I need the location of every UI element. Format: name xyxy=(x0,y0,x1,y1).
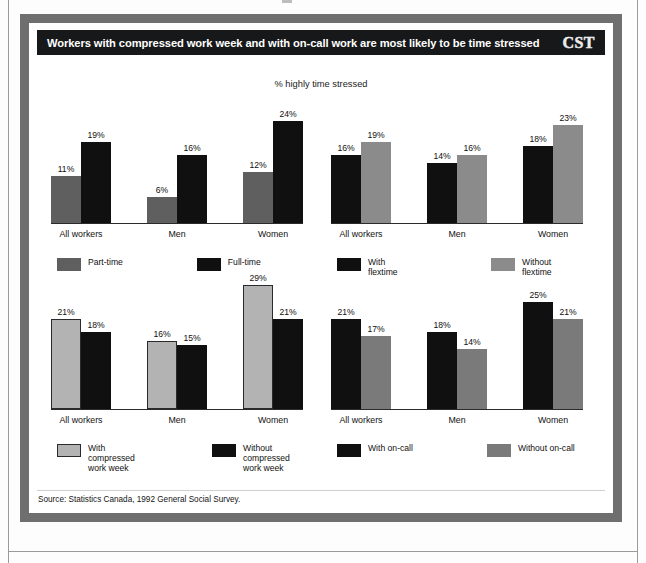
bar-value-label: 18% xyxy=(87,320,104,330)
category-label: Men xyxy=(147,415,207,425)
bar-column: 12% xyxy=(243,95,273,223)
legend-item[interactable]: Without compressed work week xyxy=(212,443,303,473)
bar-column: 16% xyxy=(147,281,177,409)
legend-swatch xyxy=(491,258,515,271)
page-title: Workers with compressed work week and wi… xyxy=(47,37,562,49)
bar-value-label: 18% xyxy=(529,134,546,144)
scanned-page: Workers with compressed work week and wi… xyxy=(0,0,646,563)
bar-value-label: 19% xyxy=(87,130,104,140)
bar-value-label: 21% xyxy=(559,307,576,317)
bar xyxy=(361,142,391,223)
legend-label: With compressed work week xyxy=(88,443,138,473)
chart-panel-part-time-full-time: 11%19%6%16%12%24%All workersMenWomenPart… xyxy=(51,95,303,223)
legend-item[interactable]: With compressed work week xyxy=(57,443,138,473)
bar-column: 16% xyxy=(457,95,487,223)
category-label: Women xyxy=(523,415,583,425)
bar-value-label: 18% xyxy=(433,320,450,330)
legend-swatch xyxy=(57,444,81,457)
bar-group: 16%15% xyxy=(147,281,207,409)
category-labels: All workersMenWomen xyxy=(331,415,583,425)
bar xyxy=(523,146,553,223)
page-edge-rule-right xyxy=(637,0,638,563)
category-label: All workers xyxy=(51,229,111,239)
figure-title-bar: Workers with compressed work week and wi… xyxy=(37,30,605,55)
legend-item[interactable]: Full-time xyxy=(197,257,261,271)
category-label: All workers xyxy=(51,415,111,425)
bar xyxy=(243,172,273,223)
bar-value-label: 14% xyxy=(463,337,480,347)
bar xyxy=(81,332,111,409)
legend-label: With on-call xyxy=(368,443,413,453)
legend-item[interactable]: With on-call xyxy=(337,443,413,457)
category-label: Women xyxy=(243,229,303,239)
category-labels: All workersMenWomen xyxy=(51,415,303,425)
bar-value-label: 16% xyxy=(153,329,170,339)
bar-group: 21%18% xyxy=(51,281,111,409)
source-note: Source: Statistics Canada, 1992 General … xyxy=(38,495,240,504)
bar xyxy=(243,285,273,409)
bar-value-label: 21% xyxy=(57,307,74,317)
bar-value-label: 6% xyxy=(156,185,168,195)
bar-value-label: 19% xyxy=(367,130,384,140)
bar-groups: 21%17%18%14%25%21% xyxy=(331,281,583,409)
cst-logo: CST xyxy=(562,34,597,52)
chart-legend: Part-timeFull-time xyxy=(57,257,261,271)
bar xyxy=(523,302,553,409)
bar-column: 14% xyxy=(457,281,487,409)
bar-value-label: 15% xyxy=(183,333,200,343)
category-label: Women xyxy=(243,415,303,425)
bar-column: 18% xyxy=(81,281,111,409)
plot-area: 21%17%18%14%25%21% xyxy=(331,281,583,409)
bar-value-label: 17% xyxy=(367,324,384,334)
bar-value-label: 23% xyxy=(559,113,576,123)
bar-column: 17% xyxy=(361,281,391,409)
bar-column: 23% xyxy=(553,95,583,223)
legend-label: Part-time xyxy=(88,257,123,267)
bar-group: 29%21% xyxy=(243,281,303,409)
bar-group: 18%23% xyxy=(523,95,583,223)
legend-item[interactable]: Without flextime xyxy=(491,257,583,277)
bar xyxy=(427,332,457,409)
legend-label: With flextime xyxy=(368,257,417,277)
legend-label: Full-time xyxy=(228,257,261,267)
bar xyxy=(457,349,487,409)
category-label: Men xyxy=(427,229,487,239)
bar-group: 16%19% xyxy=(331,95,391,223)
chart-legend: With on-callWithout on-call xyxy=(337,443,575,457)
figure-canvas: Workers with compressed work week and wi… xyxy=(29,23,613,513)
bar-column: 16% xyxy=(177,95,207,223)
bar-value-label: 21% xyxy=(279,307,296,317)
baseline-axis xyxy=(331,409,583,410)
bar-column: 11% xyxy=(51,95,81,223)
bar-value-label: 16% xyxy=(183,143,200,153)
bar xyxy=(177,345,207,409)
bar xyxy=(147,341,177,409)
bar-column: 25% xyxy=(523,281,553,409)
bar xyxy=(273,121,303,223)
bar-value-label: 29% xyxy=(249,273,266,283)
source-divider xyxy=(37,490,605,491)
bar-column: 24% xyxy=(273,95,303,223)
chart-subtitle: % highly time stressed xyxy=(29,79,613,89)
category-label: All workers xyxy=(331,415,391,425)
legend-item[interactable]: With flextime xyxy=(337,257,417,277)
legend-item[interactable]: Part-time xyxy=(57,257,123,271)
bar xyxy=(51,319,81,409)
chart-panel-compressed-work-week: 21%18%16%15%29%21%All workersMenWomenWit… xyxy=(51,281,303,409)
bar xyxy=(147,197,177,223)
bar-column: 6% xyxy=(147,95,177,223)
bar-value-label: 16% xyxy=(337,143,354,153)
chart-panel-flextime: 16%19%14%16%18%23%All workersMenWomenWit… xyxy=(331,95,583,223)
page-edge-mark-top xyxy=(282,0,292,3)
bar-column: 21% xyxy=(331,281,361,409)
legend-swatch xyxy=(337,258,361,271)
bar-group: 14%16% xyxy=(427,95,487,223)
bar-column: 14% xyxy=(427,95,457,223)
bar-value-label: 11% xyxy=(58,164,75,174)
bar-value-label: 16% xyxy=(463,143,480,153)
bar-column: 21% xyxy=(553,281,583,409)
bar xyxy=(553,125,583,223)
bar-column: 21% xyxy=(51,281,81,409)
chart-panel-on-call: 21%17%18%14%25%21%All workersMenWomenWit… xyxy=(331,281,583,409)
legend-item[interactable]: Without on-call xyxy=(487,443,575,457)
